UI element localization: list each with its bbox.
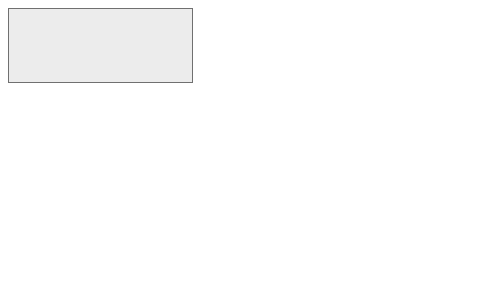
ecosystems-visible-panel — [7, 8, 193, 83]
